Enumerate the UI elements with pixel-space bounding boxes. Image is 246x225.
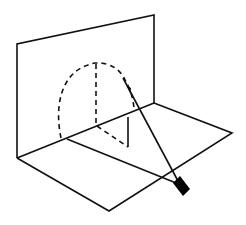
vertical-plane [17, 15, 154, 158]
horizontal-plane [17, 103, 232, 211]
geometry-diagram [0, 0, 246, 225]
dashed-floor-segment [97, 126, 128, 147]
plane-junction-line [17, 103, 154, 158]
light-source-box [173, 176, 190, 196]
